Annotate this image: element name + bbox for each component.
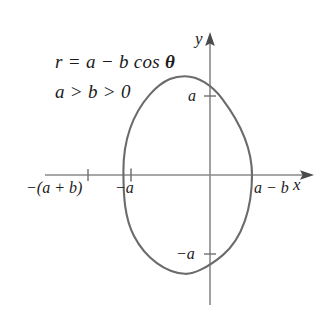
equation-line-1: r = a − b cos θ (55, 52, 175, 71)
y-axis-label: y (195, 30, 203, 47)
polar-curve-figure: r = a − b cos θ a > b > 0 y x a −a −(a +… (0, 0, 327, 318)
tick-label-x-a-minus-b: a − b (254, 180, 289, 196)
theta-symbol: θ (165, 51, 175, 72)
x-axis-label: x (293, 176, 301, 193)
tick-label-y-top-a: a (188, 88, 196, 104)
tick-label-y-bottom-minus-a: −a (176, 246, 195, 262)
equation-line-1-lead: r = a − b cos (55, 51, 165, 72)
equation-line-2: a > b > 0 (55, 82, 131, 101)
figure-canvas (0, 0, 327, 318)
tick-label-x-minus-a-plus-b: −(a + b) (26, 180, 82, 196)
tick-label-x-minus-a: −a (115, 180, 134, 196)
